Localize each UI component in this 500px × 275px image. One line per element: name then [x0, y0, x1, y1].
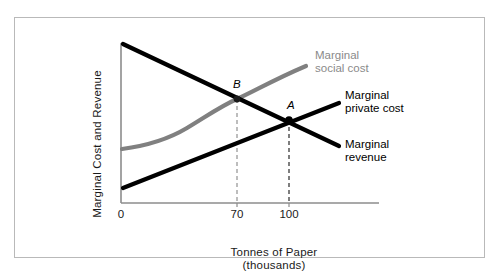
x-axis-title-main: Tonnes of Paper: [189, 246, 359, 259]
x-axis-title: Tonnes of Paper (thousands): [189, 246, 359, 272]
marginal-private-cost-line: [123, 103, 339, 188]
legend-mr-line2: revenue: [345, 151, 389, 164]
marginal-revenue-line: [123, 44, 339, 146]
legend-mpc-line1: Marginal: [345, 89, 404, 102]
x-tick-label-70: 70: [217, 208, 257, 220]
chart-plot-area: [15, 18, 484, 257]
point-label-a: A: [287, 99, 295, 111]
marginal-social-cost-curve: [122, 66, 306, 149]
legend-marginal-social-cost: Marginal social cost: [315, 49, 369, 75]
legend-msc-line1: Marginal: [315, 49, 369, 62]
point-label-b: B: [233, 78, 241, 90]
figure-container: B A Marginal social cost Marginal privat…: [0, 0, 500, 275]
legend-marginal-revenue: Marginal revenue: [345, 138, 389, 164]
legend-marginal-private-cost: Marginal private cost: [345, 89, 404, 115]
figure-frame: B A Marginal social cost Marginal privat…: [14, 17, 485, 258]
x-axis-title-sub: (thousands): [189, 259, 359, 272]
y-axis-title: Marginal Cost and Revenue: [91, 54, 103, 234]
point-b-marker: [234, 96, 241, 103]
legend-mr-line1: Marginal: [345, 138, 389, 151]
point-a-marker: [285, 116, 293, 124]
legend-msc-line2: social cost: [315, 62, 369, 75]
x-tick-label-0: 0: [101, 208, 141, 220]
legend-mpc-line2: private cost: [345, 102, 404, 115]
x-tick-label-100: 100: [269, 208, 309, 220]
